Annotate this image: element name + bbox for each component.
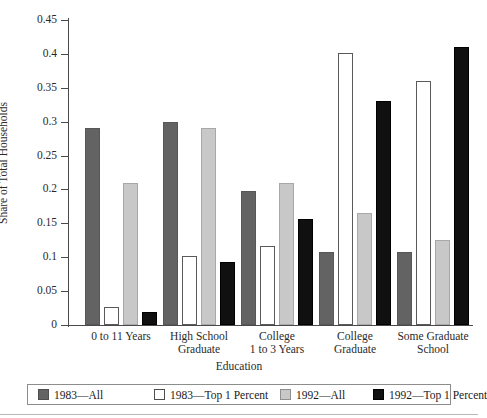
- bar-group: [163, 20, 239, 325]
- legend-item[interactable]: 1983—All: [38, 389, 103, 401]
- legend-item[interactable]: 1992—Top 1 Percent: [373, 389, 487, 401]
- legend-item[interactable]: 1992—All: [280, 389, 345, 401]
- bar: [123, 183, 138, 325]
- bar: [241, 191, 256, 325]
- footer-rule: [0, 414, 478, 415]
- bar: [397, 252, 412, 325]
- x-axis-line: [62, 325, 473, 326]
- bar: [201, 128, 216, 325]
- bar: [142, 312, 157, 325]
- x-tick-label-line: Graduate: [170, 343, 228, 356]
- x-axis-title: Education: [216, 360, 263, 372]
- legend-swatch: [280, 389, 291, 400]
- y-tick-mark: [61, 223, 68, 224]
- x-tick-label-line: 1 to 3 Years: [250, 343, 304, 356]
- y-tick-label: 0.4: [43, 48, 57, 60]
- plot-area: 00.050.10.150.20.250.30.350.40.45: [68, 20, 471, 325]
- y-tick-label: 0.05: [37, 285, 57, 297]
- y-tick-mark: [61, 156, 68, 157]
- x-tick-label: Some GraduateSchool: [397, 330, 468, 356]
- y-tick-label: 0.35: [37, 82, 57, 94]
- y-tick-mark: [61, 325, 68, 326]
- bar-group: [85, 20, 161, 325]
- bar-group: [397, 20, 473, 325]
- y-tick-label: 0.1: [43, 251, 57, 263]
- x-tick-label-line: High School: [170, 330, 228, 343]
- y-tick-mark: [61, 189, 68, 190]
- y-tick-label: 0: [51, 319, 57, 331]
- bar: [279, 183, 294, 325]
- legend-label: 1983—All: [54, 389, 103, 401]
- bar: [104, 307, 119, 325]
- x-tick-label-line: 0 to 11 Years: [91, 330, 151, 343]
- y-tick-label: 0.25: [37, 150, 57, 162]
- bar: [260, 246, 275, 325]
- legend-label: 1992—All: [296, 389, 345, 401]
- y-tick-label: 0.15: [37, 218, 57, 230]
- legend-swatch: [38, 389, 49, 400]
- y-tick-mark: [61, 122, 68, 123]
- legend-label: 1992—Top 1 Percent: [389, 389, 487, 401]
- y-tick-mark: [61, 54, 68, 55]
- bar: [376, 101, 391, 325]
- legend-swatch: [373, 389, 384, 400]
- legend-label: 1983—Top 1 Percent: [170, 389, 268, 401]
- y-tick-mark: [61, 88, 68, 89]
- y-tick-mark: [61, 20, 68, 21]
- x-tick-label-line: Graduate: [334, 343, 376, 356]
- legend-item[interactable]: 1983—Top 1 Percent: [154, 389, 268, 401]
- x-tick-label: CollegeGraduate: [334, 330, 376, 356]
- y-tick-label: 0.2: [43, 184, 57, 196]
- y-tick-mark: [61, 291, 68, 292]
- bar: [319, 252, 334, 325]
- bar: [85, 128, 100, 325]
- y-tick-label: 0.3: [43, 116, 57, 128]
- x-tick-label: College1 to 3 Years: [250, 330, 304, 356]
- bar: [163, 122, 178, 325]
- x-tick-label: 0 to 11 Years: [91, 330, 151, 343]
- y-tick-label: 0.45: [37, 14, 57, 26]
- bar: [357, 213, 372, 325]
- bar-group: [241, 20, 317, 325]
- bar: [416, 81, 431, 325]
- bar: [338, 53, 353, 325]
- bar: [182, 256, 197, 325]
- y-tick-mark: [61, 257, 68, 258]
- bar: [298, 219, 313, 325]
- x-tick-label-line: College: [250, 330, 304, 343]
- x-tick-label-line: College: [334, 330, 376, 343]
- y-axis-title: Share of Total Households: [0, 102, 9, 224]
- legend-swatch: [154, 389, 165, 400]
- bar: [435, 240, 450, 325]
- bar: [454, 47, 469, 325]
- bar-group: [319, 20, 395, 325]
- x-tick-label: High SchoolGraduate: [170, 330, 228, 356]
- x-tick-label-line: Some Graduate: [397, 330, 468, 343]
- bar: [220, 262, 235, 325]
- x-tick-label-line: School: [397, 343, 468, 356]
- chart-legend: 1983—All1983—Top 1 Percent1992—All1992—T…: [27, 384, 451, 405]
